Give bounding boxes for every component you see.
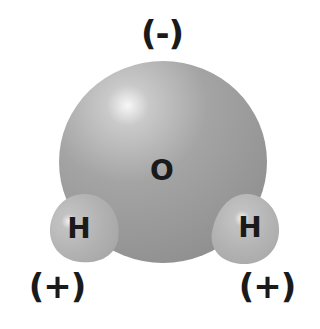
hydrogen-left-charge-label: (+): [29, 269, 86, 303]
hydrogen-right-symbol: H: [238, 214, 261, 242]
oxygen-symbol: O: [150, 157, 174, 185]
hydrogen-right-charge-label: (+): [239, 269, 296, 303]
oxygen-charge-label: (-): [141, 16, 183, 50]
hydrogen-left-symbol: H: [67, 215, 90, 243]
